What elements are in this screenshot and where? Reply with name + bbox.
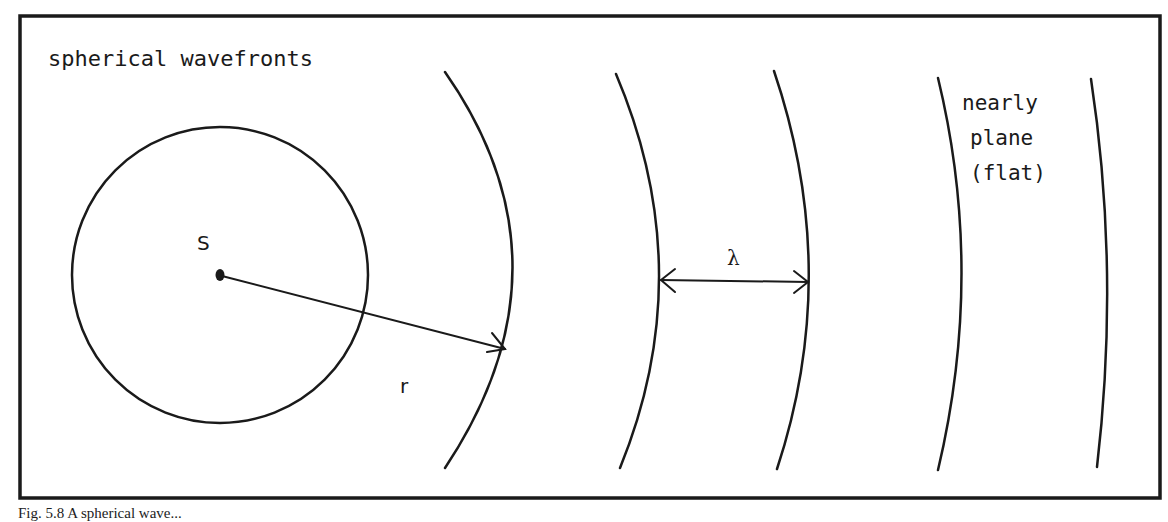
wavefront-arc-4 bbox=[938, 78, 962, 470]
plane-label-line-1: nearly bbox=[962, 91, 1038, 115]
wavefront-arc-2 bbox=[616, 74, 659, 468]
radius-label: r bbox=[400, 374, 409, 398]
source-point bbox=[216, 269, 225, 281]
wavelength-label: λ bbox=[727, 246, 740, 270]
figure-caption: Fig. 5.8 A spherical wave... bbox=[18, 505, 182, 522]
title-label: spherical wavefronts bbox=[48, 46, 313, 71]
wavefront-arc-5 bbox=[1091, 79, 1107, 467]
radius-arrow-line bbox=[222, 276, 505, 349]
plane-label-line-2: plane bbox=[970, 126, 1033, 150]
source-label: S bbox=[197, 231, 210, 255]
wavelength-arrow-line bbox=[661, 280, 808, 282]
wavefront-arc-1 bbox=[445, 72, 513, 468]
figure-frame bbox=[20, 16, 1160, 498]
plane-label-line-3: (flat) bbox=[970, 161, 1046, 185]
wavefront-arc-3 bbox=[774, 71, 809, 469]
